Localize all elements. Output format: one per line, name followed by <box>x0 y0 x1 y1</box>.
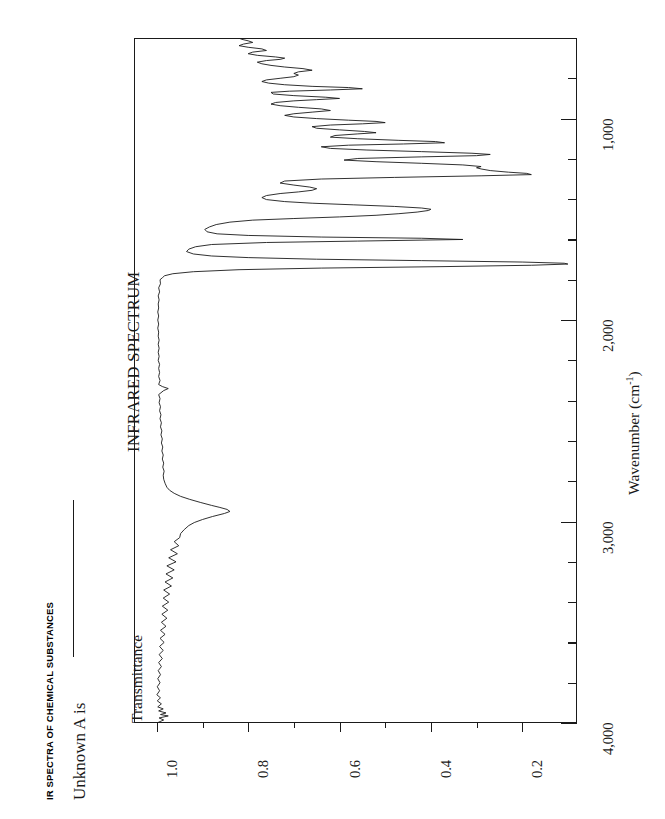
wavenumber-tick-label: 3,000 <box>600 521 617 554</box>
transmittance-tick-major <box>431 723 432 732</box>
transmittance-tick-label: 0.8 <box>255 760 272 778</box>
book-running-header: IR SPECTRA OF CHEMICAL SUBSTANCES <box>44 602 55 800</box>
wavenumber-tick-minor <box>568 78 577 79</box>
transmittance-tick-minor <box>294 723 295 728</box>
x-axis-title-close: ) <box>625 371 642 376</box>
transmittance-tick-major <box>157 723 158 732</box>
transmittance-tick-minor <box>203 723 204 728</box>
transmittance-tick-major <box>340 723 341 732</box>
wavenumber-tick-minor <box>568 199 577 200</box>
x-axis-title-main: Wavenumber (cm <box>625 385 642 495</box>
wavenumber-tick-minor <box>568 602 577 603</box>
wavenumber-tick-minor <box>568 401 577 402</box>
wavenumber-tick-major <box>561 723 577 724</box>
wavenumber-tick-minor <box>568 239 577 240</box>
wavenumber-tick-major <box>561 119 577 120</box>
x-axis-title-exponent: -1 <box>624 376 635 384</box>
spectrum-curve <box>134 38 577 723</box>
transmittance-tick-label: 1.0 <box>164 760 181 778</box>
wavenumber-tick-minor <box>568 481 577 482</box>
transmittance-tick-major <box>522 723 523 732</box>
transmittance-tick-label: 0.6 <box>347 760 364 778</box>
transmittance-tick-minor <box>385 723 386 728</box>
wavenumber-tick-label: 4,000 <box>600 722 617 755</box>
x-axis-title: Wavenumber (cm-1) <box>624 371 643 495</box>
wavenumber-tick-minor <box>568 159 577 160</box>
transmittance-tick-major <box>248 723 249 732</box>
wavenumber-tick-minor <box>568 642 577 643</box>
answer-blank-rule <box>73 500 74 657</box>
wavenumber-tick-major <box>561 320 577 321</box>
wavenumber-tick-major <box>561 522 577 523</box>
transmittance-tick-minor <box>477 723 478 728</box>
wavenumber-tick-minor <box>568 562 577 563</box>
wavenumber-tick-minor <box>568 683 577 684</box>
wavenumber-tick-minor <box>568 441 577 442</box>
wavenumber-tick-label: 1,000 <box>600 118 617 151</box>
transmittance-tick-label: 0.2 <box>529 760 546 778</box>
wavenumber-tick-label: 2,000 <box>600 319 617 352</box>
transmittance-tick-label: 0.4 <box>438 760 455 778</box>
wavenumber-tick-minor <box>568 360 577 361</box>
spectrum-page: IR SPECTRA OF CHEMICAL SUBSTANCES Unknow… <box>0 0 665 819</box>
wavenumber-tick-minor <box>568 280 577 281</box>
unknown-prompt-label: Unknown A is <box>70 703 90 800</box>
